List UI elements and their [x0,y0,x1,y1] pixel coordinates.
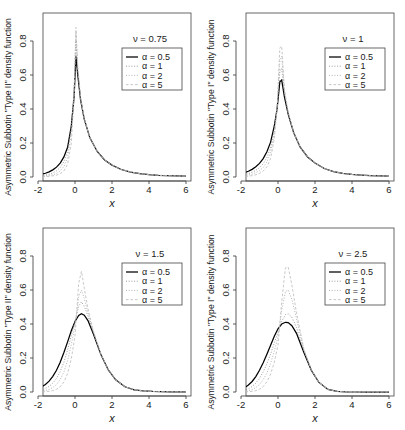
y-tick-0: 0.0 [220,170,231,183]
x-tick-4: 6 [183,184,188,195]
y-tick-0: 0.0 [17,385,28,398]
x-tick-labels: -2 0 2 4 6 [34,399,189,410]
x-tick-0: -2 [34,399,42,410]
y-tick-0: 0.0 [220,385,231,398]
x-tick-labels: -2 0 2 4 6 [236,184,391,195]
x-tick-1: 0 [275,399,280,410]
density-curve [241,322,389,392]
x-axis-label: x [108,412,115,424]
x-tick-2: 2 [312,184,317,195]
y-tick-2: 0.4 [220,317,231,330]
x-tick-2: 2 [109,399,114,410]
nu-parameter-label: ν = 2.5 [338,248,367,259]
y-axis-label: Asymmetric Subbotin "Type II" density fu… [3,18,13,196]
x-tick-0: -2 [236,399,244,410]
y-tick-labels: 0.0 0.2 0.4 0.6 0.8 [17,249,28,398]
y-tick-2: 0.4 [17,317,28,330]
panel-plot-3: Asymmetric Subbotin "Type I" density fun… [203,215,405,430]
density-curve [38,302,186,392]
y-tick-4: 0.8 [220,34,231,47]
nu-parameter-label: ν = 1 [342,33,363,44]
x-tick-2: 2 [312,399,317,410]
nu-parameter-label: ν = 1.5 [136,248,165,259]
x-axis-label: x [108,197,115,209]
legend-label: α = 5 [345,80,365,90]
y-tick-labels: 0.0 0.2 0.4 0.6 0.8 [220,249,231,398]
density-curve [38,314,186,392]
y-tick-1: 0.2 [17,136,28,149]
y-tick-1: 0.2 [220,136,231,149]
x-tick-4: 6 [183,399,188,410]
y-tick-3: 0.6 [220,283,231,296]
panel-bottom-left: Asymmetric Subbotin "Type II" density fu… [0,215,202,430]
y-axis-label: Asymmetric Subbotin "Type II" density fu… [3,233,13,411]
x-tick-0: -2 [34,184,42,195]
x-tick-3: 4 [146,399,151,410]
x-tick-3: 4 [146,184,151,195]
y-tick-4: 0.8 [220,249,231,262]
legend-label: α = 5 [142,295,162,305]
y-axis-label: Asymmetric Subbotin "Type I" density fun… [206,234,216,409]
legend: α = 0.5α = 1α = 2α = 5 [325,263,385,305]
legend-label: α = 5 [142,80,162,90]
y-tick-4: 0.8 [17,249,28,262]
plot-frame [43,13,191,181]
legend: α = 0.5α = 1α = 2α = 5 [122,263,182,305]
y-axis-label: Asymmetric Subbotin "Type I" density fun… [206,19,216,194]
y-tick-1: 0.2 [17,351,28,364]
density-curve [241,80,389,176]
x-tick-3: 4 [349,184,354,195]
panel-top-left: Asymmetric Subbotin "Type II" density fu… [0,0,202,215]
panel-plot-2: Asymmetric Subbotin "Type II" density fu… [0,215,202,430]
y-tick-labels: 0.0 0.2 0.4 0.6 0.8 [220,34,231,183]
x-tick-1: 0 [72,184,77,195]
x-tick-1: 0 [275,184,280,195]
x-tick-1: 0 [72,399,77,410]
y-tick-2: 0.4 [17,102,28,115]
y-tick-1: 0.2 [220,351,231,364]
plot-frame [246,13,394,181]
legend: α = 0.5α = 1α = 2α = 5 [325,48,385,90]
x-tick-labels: -2 0 2 4 6 [236,399,391,410]
panel-bottom-right: Asymmetric Subbotin "Type I" density fun… [203,215,405,430]
nu-parameter-label: ν = 0.75 [133,33,167,44]
x-axis-label: x [311,412,318,424]
y-tick-labels: 0.0 0.2 0.4 0.6 0.8 [17,34,28,183]
panel-plot-1: Asymmetric Subbotin "Type I" density fun… [203,0,405,215]
y-tick-0: 0.0 [17,170,28,183]
x-tick-3: 4 [349,399,354,410]
y-tick-4: 0.8 [17,34,28,47]
y-tick-3: 0.6 [17,68,28,81]
density-curve [241,314,389,392]
x-tick-labels: -2 0 2 4 6 [34,184,189,195]
panel-plot-0: Asymmetric Subbotin "Type II" density fu… [0,0,202,215]
plot-frame [43,228,191,396]
x-tick-4: 6 [386,184,391,195]
y-tick-3: 0.6 [17,283,28,296]
y-tick-2: 0.4 [220,102,231,115]
legend: α = 0.5α = 1α = 2α = 5 [122,48,182,90]
x-tick-2: 2 [109,184,114,195]
plot-frame [246,228,394,396]
panel-top-right: Asymmetric Subbotin "Type I" density fun… [203,0,405,215]
figure-grid: Asymmetric Subbotin "Type II" density fu… [0,0,405,430]
x-tick-0: -2 [236,184,244,195]
y-tick-3: 0.6 [220,68,231,81]
x-axis-label: x [311,197,318,209]
x-tick-4: 6 [386,399,391,410]
legend-label: α = 5 [345,295,365,305]
